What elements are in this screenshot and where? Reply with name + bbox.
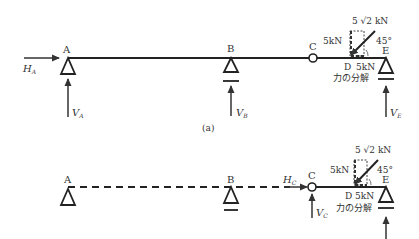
node-label-a: A: [62, 44, 71, 55]
node-label-a: A: [63, 174, 72, 185]
roller-support-b-icon: [224, 58, 238, 72]
resultant-load-label: 5 √2 kN: [355, 145, 391, 155]
angle-arc-icon: [369, 179, 371, 185]
horizontal-component-label: 5kN: [356, 62, 375, 72]
beam-diagrams: A HA VA B VB (a) C 5 √2 kN 5kN 45° D 5kN…: [0, 0, 419, 239]
reaction-hc-label: HC: [282, 174, 297, 186]
caption-a: (a): [202, 123, 214, 133]
vertical-component-label: 5kN: [330, 165, 349, 175]
roller-support-e-icon: [379, 58, 393, 73]
node-label-d: D: [345, 191, 352, 201]
diagram-b: A B HC C VC 5 √2 kN 5kN 45° D 5kN 力の分解 E: [61, 145, 394, 239]
vertical-component-label: 5kN: [323, 36, 342, 46]
hinge-c-icon: [309, 54, 317, 62]
resultant-load-arrow-icon: [351, 31, 375, 55]
angle-arc-icon: [366, 50, 368, 56]
hinge-c-icon: [308, 183, 316, 191]
decomposition-label: 力の分解: [333, 72, 369, 83]
node-label-e: E: [382, 174, 389, 185]
node-label-d: D: [344, 62, 351, 72]
decomposition-label: 力の分解: [336, 202, 372, 213]
horizontal-component-label: 5kN: [355, 191, 374, 201]
node-label-c: C: [308, 170, 316, 181]
pin-support-a-icon: [61, 58, 75, 74]
pin-support-a-icon: [61, 189, 75, 205]
roller-support-e-icon: [379, 187, 393, 202]
reaction-ve-label: VE: [390, 107, 402, 119]
node-label-c: C: [309, 41, 317, 52]
reaction-va-label: VA: [72, 107, 84, 119]
node-label-b: B: [227, 43, 234, 54]
resultant-load-label: 5 √2 kN: [352, 16, 388, 26]
diagram-a: A HA VA B VB (a) C 5 √2 kN 5kN 45° D 5kN…: [22, 16, 402, 133]
reaction-ha-label: HA: [22, 63, 37, 75]
node-label-b: B: [227, 174, 234, 185]
roller-support-b-icon: [224, 187, 238, 203]
reaction-vc-label: VC: [316, 207, 328, 219]
node-label-e: E: [382, 45, 389, 56]
reaction-vb-label: VB: [236, 107, 248, 119]
